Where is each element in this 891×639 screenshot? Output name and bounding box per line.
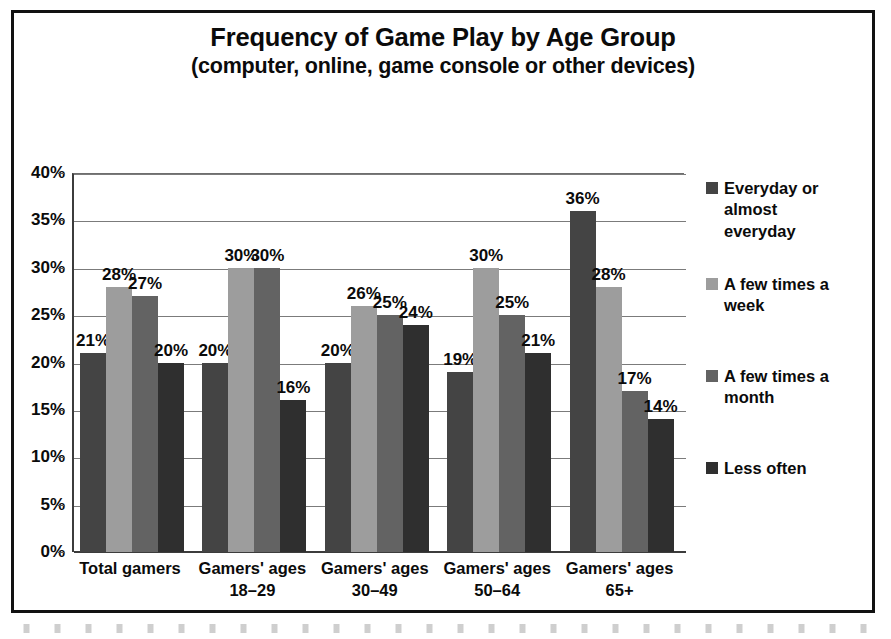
x-axis-category-line-2: 50–64	[432, 580, 562, 602]
y-axis-tick-mark	[58, 315, 65, 316]
bar[interactable]	[403, 325, 429, 552]
x-axis-category-label: Total gamers	[65, 558, 195, 580]
legend-item[interactable]: A few times a week	[706, 274, 871, 317]
bar-value-label: 21%	[521, 331, 555, 351]
x-axis-category-label: Gamers' ages65+	[555, 558, 685, 602]
chart-title-line-1: Frequency of Game Play by Age Group	[14, 22, 872, 53]
legend-label: Less often	[724, 458, 807, 479]
bar-value-label: 19%	[443, 350, 477, 370]
bar-value-label: 16%	[276, 378, 310, 398]
bar[interactable]	[351, 306, 377, 552]
legend-swatch-icon	[706, 462, 718, 474]
bar[interactable]	[158, 363, 184, 553]
y-axis-tick-mark	[58, 220, 65, 221]
bar-value-label: 36%	[566, 189, 600, 209]
bar-group: 36%28%17%14%	[564, 173, 686, 552]
bar-group: 19%30%25%21%	[441, 173, 563, 552]
chart-legend: Everyday or almost everydayA few times a…	[706, 178, 871, 508]
x-axis-category-line-1: Gamers' ages	[321, 559, 429, 577]
y-axis-tick-mark	[58, 457, 65, 458]
plot-area: 21%28%27%20%20%30%30%16%20%26%25%24%19%3…	[72, 173, 684, 552]
legend-item[interactable]: A few times a month	[706, 366, 871, 409]
bar-value-label: 14%	[644, 397, 678, 417]
bar[interactable]	[280, 400, 306, 552]
scan-artifact	[14, 624, 872, 633]
bar-value-label: 17%	[618, 369, 652, 389]
x-axis-category-label: Gamers' ages50–64	[432, 558, 562, 602]
bar[interactable]	[447, 372, 473, 552]
chart-subtitle: (computer, online, game console or other…	[14, 53, 872, 79]
bar[interactable]	[648, 419, 674, 552]
legend-swatch-icon	[706, 182, 718, 194]
x-axis-category-line-1: Gamers' ages	[566, 559, 674, 577]
x-axis: Total gamersGamers' ages18–29Gamers' age…	[72, 558, 684, 618]
bar[interactable]	[325, 363, 351, 553]
chart-figure: Frequency of Game Play by Age Group (com…	[0, 0, 891, 639]
bar[interactable]	[132, 296, 158, 552]
x-axis-category-line-1: Gamers' ages	[443, 559, 551, 577]
legend-item[interactable]: Less often	[706, 458, 807, 479]
bar[interactable]	[254, 268, 280, 552]
bar[interactable]	[80, 353, 106, 552]
bar[interactable]	[202, 363, 228, 553]
bar-value-label: 27%	[128, 274, 162, 294]
bar[interactable]	[596, 287, 622, 552]
bar[interactable]	[228, 268, 254, 552]
y-axis-tick-mark	[58, 552, 65, 553]
legend-label: A few times a week	[724, 274, 871, 317]
x-axis-category-line-2: 30–49	[310, 580, 440, 602]
bar-value-label: 30%	[469, 246, 503, 266]
y-axis-tick-mark	[58, 410, 65, 411]
bar-value-label: 30%	[250, 246, 284, 266]
bar-value-label: 24%	[399, 303, 433, 323]
legend-label: Everyday or almost everyday	[724, 178, 871, 242]
y-axis-tick-mark	[58, 173, 65, 174]
x-axis-category-line-1: Total gamers	[79, 559, 180, 577]
legend-item[interactable]: Everyday or almost everyday	[706, 178, 871, 242]
y-axis-tick-mark	[58, 268, 65, 269]
x-axis-category-line-2: 65+	[555, 580, 685, 602]
chart-title: Frequency of Game Play by Age Group (com…	[14, 22, 872, 79]
bar-value-label: 25%	[495, 293, 529, 313]
bar-group: 20%26%25%24%	[319, 173, 441, 552]
legend-label: A few times a month	[724, 366, 871, 409]
bar[interactable]	[525, 353, 551, 552]
bar-group: 21%28%27%20%	[74, 173, 196, 552]
bar-value-label: 20%	[154, 341, 188, 361]
bar-value-label: 28%	[592, 265, 626, 285]
x-axis-category-line-1: Gamers' ages	[199, 559, 307, 577]
bar-value-label: 20%	[198, 341, 232, 361]
x-axis-category-line-2: 18–29	[187, 580, 317, 602]
y-axis: 0%5%10%15%20%25%30%35%40%	[0, 173, 65, 552]
bar-group: 20%30%30%16%	[196, 173, 318, 552]
y-axis-tick-mark	[58, 363, 65, 364]
x-axis-category-label: Gamers' ages18–29	[187, 558, 317, 602]
x-axis-category-label: Gamers' ages30–49	[310, 558, 440, 602]
bar-value-label: 20%	[321, 341, 355, 361]
bar[interactable]	[570, 211, 596, 552]
legend-swatch-icon	[706, 278, 718, 290]
bar[interactable]	[106, 287, 132, 552]
legend-swatch-icon	[706, 370, 718, 382]
y-axis-tick-mark	[58, 505, 65, 506]
bar[interactable]	[377, 315, 403, 552]
bar-value-label: 21%	[76, 331, 110, 351]
